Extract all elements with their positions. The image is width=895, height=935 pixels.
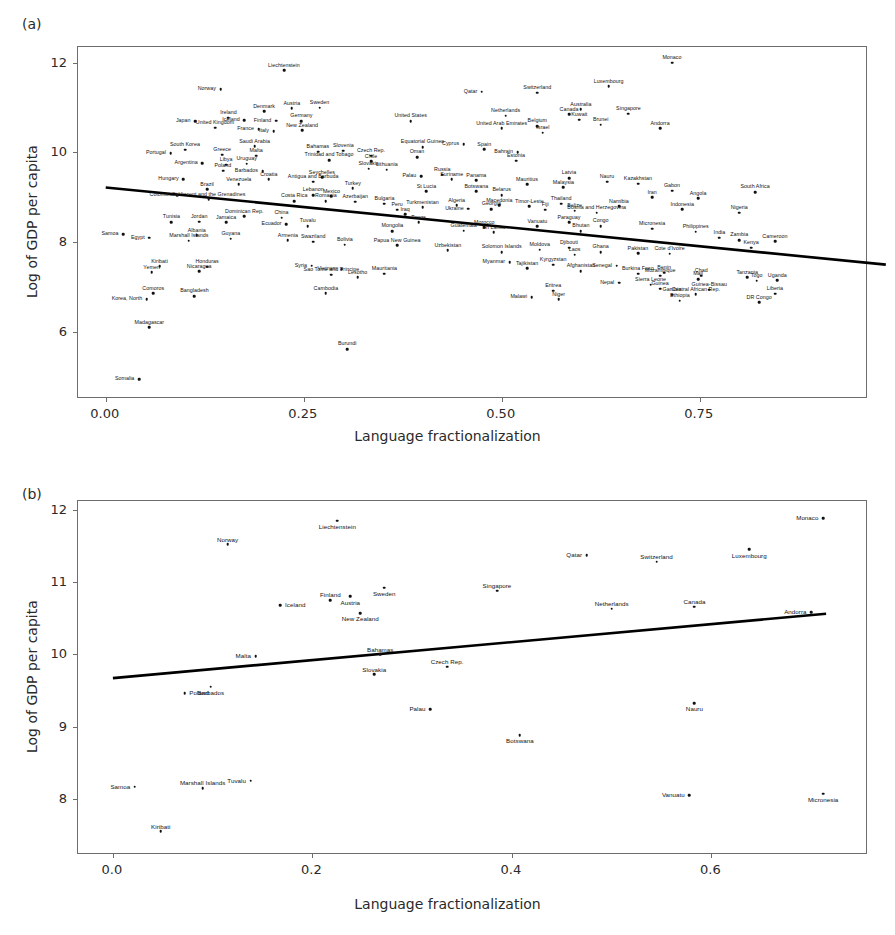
data-point	[226, 543, 229, 546]
data-point-label: DR Congo	[747, 295, 772, 300]
data-point-label: Norway	[217, 537, 238, 543]
y-tick-label: 8	[45, 790, 67, 805]
data-point-label: Belarus	[493, 188, 511, 193]
data-point	[668, 253, 671, 256]
data-point-label: Antigua and Barbuda	[288, 174, 339, 179]
data-point	[354, 201, 357, 204]
data-point-label: Vanuatu	[662, 792, 685, 798]
data-point	[481, 91, 484, 94]
data-point	[776, 279, 779, 282]
data-point-label: Belgium	[528, 119, 548, 124]
data-point	[383, 272, 386, 275]
data-point-label: Djibouti	[560, 240, 578, 245]
data-point	[409, 120, 412, 123]
x-tick-mark	[512, 853, 513, 858]
x-tick-label: 0.00	[90, 406, 119, 421]
data-point-label: France	[237, 126, 254, 131]
data-point	[627, 113, 630, 116]
data-point-label: Ecuador	[262, 222, 282, 227]
data-point-label: Switzerland	[640, 554, 673, 560]
data-point	[283, 69, 286, 72]
data-point-label: Jamaica	[216, 215, 236, 220]
data-point-label: Congo	[593, 219, 609, 224]
data-point-label: Guyana	[221, 231, 240, 236]
data-point	[169, 152, 172, 155]
x-tick-mark	[304, 397, 305, 402]
data-point-label: Nicaragua	[187, 264, 212, 269]
data-point-label: Tajikistan	[516, 261, 538, 266]
data-point-label: Saudi Arabia	[239, 139, 270, 144]
data-point	[386, 168, 389, 171]
data-point-label: Iran	[647, 190, 656, 195]
data-point-label: Sri Lanka	[482, 225, 505, 230]
y-tick-label: 10	[45, 144, 67, 159]
data-point	[560, 202, 563, 205]
data-point-label: Luxembourg	[732, 552, 767, 558]
data-point-label: United Kingdom	[196, 121, 234, 126]
data-point	[607, 85, 610, 88]
data-point-label: Swaziland	[301, 234, 326, 239]
data-point	[580, 108, 583, 111]
data-point-label: Romania	[315, 194, 337, 199]
data-point-label: Iceland	[285, 602, 305, 608]
data-point-label: Turkey	[345, 181, 361, 186]
data-point-label: Venezuela	[226, 177, 251, 182]
data-point-label: Suriname	[440, 172, 463, 177]
data-point	[330, 273, 333, 276]
data-point-label: Brunei	[593, 117, 609, 122]
panel-b-plot-area: MonacoLiechtensteinNorwayLuxembourgQatar…	[77, 500, 867, 854]
data-point-label: Nauru	[600, 174, 615, 179]
data-point	[268, 178, 271, 181]
data-point	[822, 792, 825, 795]
y-tick-mark	[73, 582, 78, 583]
x-tick-label: 0.2	[301, 862, 322, 877]
data-point-label: Canada	[683, 599, 705, 605]
data-point-label: Israel	[536, 125, 549, 130]
data-point-label: Kuwait	[571, 112, 587, 117]
data-point	[279, 604, 282, 607]
data-point	[504, 114, 507, 117]
data-point-label: Czech Rep.	[431, 659, 464, 665]
data-point	[421, 206, 424, 209]
data-point	[429, 708, 432, 711]
data-point	[637, 272, 640, 275]
data-point-label: Dominican Rep.	[225, 209, 263, 214]
data-point-label: Qatar	[464, 89, 478, 94]
data-point-label: Spain	[477, 142, 491, 147]
data-point	[637, 252, 640, 255]
data-point-label: Malta	[250, 148, 263, 153]
data-point	[615, 264, 618, 267]
data-point	[573, 253, 576, 256]
data-point-label: Portugal	[146, 151, 166, 156]
data-point-label: Singapore	[483, 583, 512, 589]
data-point-label: Austria	[283, 101, 300, 106]
y-tick-label: 6	[45, 323, 67, 338]
data-point	[188, 240, 191, 243]
data-point-label: Qatar	[566, 552, 582, 558]
data-point-label: Ireland	[220, 111, 237, 116]
data-point-label: Myanmar	[483, 260, 505, 265]
data-point-label: Kazakhstan	[624, 177, 652, 182]
data-point	[272, 130, 275, 133]
data-point	[651, 227, 654, 230]
data-point	[122, 233, 125, 236]
data-point-label: Italy	[259, 129, 269, 134]
data-point	[557, 298, 560, 301]
data-point	[671, 189, 674, 192]
data-point-label: Sweden	[310, 100, 329, 105]
data-point	[599, 251, 602, 254]
data-point-label: Senegal	[592, 263, 612, 268]
data-point-label: Mauritius	[516, 177, 538, 182]
x-tick-label: 0.6	[700, 862, 721, 877]
data-point	[245, 162, 248, 165]
y-tick-mark	[73, 510, 78, 511]
data-point-label: Andorra	[784, 609, 806, 615]
data-point	[693, 702, 696, 705]
x-tick-label: 0.4	[501, 862, 522, 877]
data-point	[610, 607, 613, 610]
data-point-label: Estonia	[507, 153, 525, 158]
data-point-label: Uganda	[768, 273, 787, 278]
data-point-label: Zambia	[730, 233, 748, 238]
data-point-label: Poland	[189, 690, 209, 696]
data-point-label: Niger	[552, 292, 565, 297]
